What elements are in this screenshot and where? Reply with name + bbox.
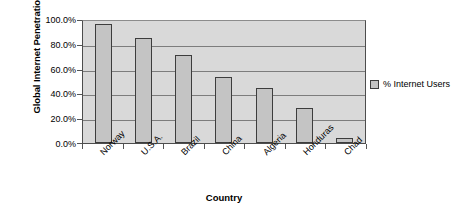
bar-honduras[interactable]	[296, 108, 313, 143]
x-axis-tick	[204, 144, 205, 149]
y-axis-tick-labels: 100.0% 80.0% 60.0% 40.0% 20.0% 0.0%	[28, 20, 76, 144]
y-tick-label: 80.0%	[28, 41, 76, 50]
bar-slot	[204, 21, 244, 143]
x-axis-tick	[163, 144, 164, 149]
x-axis-tick	[244, 144, 245, 149]
x-axis-title: Country	[82, 192, 366, 203]
bar-algeria[interactable]	[256, 88, 273, 143]
bar-slot	[244, 21, 284, 143]
x-axis-tick	[285, 144, 286, 149]
legend-swatch-icon	[370, 80, 379, 89]
x-axis-tick-labels: Norway U.S.A. Brazil China Algeria Hondu…	[82, 150, 366, 190]
bar-brazil[interactable]	[175, 55, 192, 143]
plot-area	[82, 20, 366, 144]
x-axis-tick	[325, 144, 326, 149]
bar-slot	[83, 21, 123, 143]
bar-series	[83, 21, 365, 143]
x-axis-tick	[366, 144, 367, 149]
y-tick-label: 40.0%	[28, 90, 76, 99]
y-tick-label: 0.0%	[28, 140, 76, 149]
legend: % Internet Users	[370, 79, 450, 89]
x-axis-tick	[82, 144, 83, 149]
bar-slot	[123, 21, 163, 143]
bar-slot	[284, 21, 324, 143]
legend-label: % Internet Users	[383, 79, 450, 89]
bar-usa[interactable]	[135, 38, 152, 143]
bar-norway[interactable]	[95, 24, 112, 143]
bar-china[interactable]	[215, 77, 232, 143]
y-tick-label: 100.0%	[28, 16, 76, 25]
x-axis-tick	[123, 144, 124, 149]
y-tick-label: 60.0%	[28, 66, 76, 75]
bar-slot	[164, 21, 204, 143]
bar-chart: Global Internet Penetration Rates 100.0%…	[0, 0, 476, 214]
y-tick-label: 20.0%	[28, 115, 76, 124]
